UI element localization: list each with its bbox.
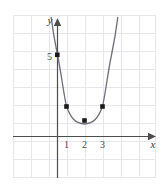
grid-vertical-lines xyxy=(14,15,156,178)
point-2-1 xyxy=(82,118,87,123)
y-axis-label: y xyxy=(47,14,53,26)
parabola-graph-figure: 5 1 2 3 y x xyxy=(0,0,168,195)
coordinate-plane: 5 1 2 3 y x xyxy=(0,0,168,195)
y-tick-label-5: 5 xyxy=(47,51,52,62)
point-0-5 xyxy=(55,53,60,58)
x-axis-label: x xyxy=(150,138,156,150)
point-1-2 xyxy=(64,104,69,109)
grid-horizontal-lines xyxy=(13,16,156,178)
x-tick-label-1: 1 xyxy=(64,139,69,150)
x-tick-label-2: 2 xyxy=(82,139,87,150)
x-tick-label-3: 3 xyxy=(100,139,105,150)
point-3-2 xyxy=(100,104,105,109)
